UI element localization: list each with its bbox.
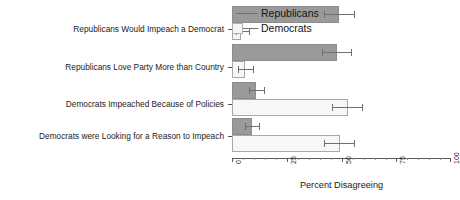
x-axis-minor-tick	[276, 158, 277, 160]
x-axis-minor-tick	[386, 158, 387, 160]
x-axis-minor-tick	[309, 158, 310, 160]
category-label-2: Democrats Impeached Because of Policies	[66, 100, 224, 109]
errorbar-republicans-1	[322, 52, 352, 53]
bar-democrats-2	[232, 99, 348, 116]
legend: Republicans Democrats	[236, 6, 386, 36]
x-axis-minor-tick	[254, 158, 255, 160]
category-label-0: Republicans Would Impeach a Democrat	[73, 25, 224, 34]
legend-item-democrats: Democrats	[236, 21, 386, 36]
errorbar-cap-democrats-3-low	[324, 140, 325, 147]
category-label-1: Republicans Love Party More than Country	[65, 63, 224, 72]
x-axis-minor-tick	[331, 158, 332, 160]
errorbar-cap-republicans-2-low	[249, 87, 250, 94]
x-axis-minor-tick	[320, 158, 321, 160]
x-axis-minor-tick	[375, 158, 376, 160]
errorbar-cap-republicans-3-high	[259, 123, 260, 130]
errorbar-cap-democrats-2-low	[332, 104, 333, 111]
x-tick-label-4: 100	[453, 152, 460, 164]
x-tick-label-2: 50	[345, 156, 352, 164]
x-axis-tick-0	[232, 158, 233, 162]
x-axis-minor-tick	[429, 158, 430, 160]
errorbar-cap-democrats-1-low	[238, 66, 239, 73]
x-axis-minor-tick	[265, 158, 266, 160]
legend-key-republicans-icon	[236, 8, 258, 19]
x-axis-minor-tick	[243, 158, 244, 160]
legend-key-democrats-icon	[236, 23, 258, 34]
errorbar-cap-republicans-1-high	[351, 49, 352, 56]
x-tick-label-3: 75	[399, 156, 406, 164]
x-tick-label-1: 25	[290, 156, 297, 164]
x-axis-minor-tick	[418, 158, 419, 160]
x-axis-minor-tick	[364, 158, 365, 160]
errorbar-cap-democrats-3-high	[354, 140, 355, 147]
x-axis-tick-4	[450, 158, 451, 162]
errorbar-republicans-3	[245, 126, 260, 127]
errorbar-cap-democrats-2-high	[362, 104, 363, 111]
errorbar-democrats-3	[324, 143, 355, 144]
x-axis-minor-tick	[298, 158, 299, 160]
errorbar-cap-republicans-3-low	[245, 123, 246, 130]
x-axis-title: Percent Disagreeing	[232, 180, 451, 190]
x-tick-label-0: 0	[235, 160, 242, 164]
legend-item-republicans: Republicans	[236, 6, 386, 21]
errorbar-democrats-1	[238, 69, 254, 70]
x-axis-tick-2	[342, 158, 343, 162]
x-axis-minor-tick	[440, 158, 441, 160]
x-axis-minor-tick	[407, 158, 408, 160]
errorbar-cap-republicans-1-low	[322, 49, 323, 56]
x-axis-tick-3	[396, 158, 397, 162]
errorbar-cap-republicans-2-high	[264, 87, 265, 94]
x-axis-minor-tick	[353, 158, 354, 160]
x-axis-tick-1	[287, 158, 288, 162]
legend-label-democrats: Democrats	[261, 23, 312, 34]
errorbar-cap-democrats-1-high	[253, 66, 254, 73]
errorbar-democrats-2	[332, 107, 363, 108]
errorbar-republicans-2	[249, 90, 265, 91]
category-label-3: Democrats were Looking for a Reason to I…	[39, 132, 224, 141]
category-axis: Republicans Would Impeach a Democrat Rep…	[0, 0, 228, 152]
legend-label-republicans: Republicans	[261, 8, 319, 19]
